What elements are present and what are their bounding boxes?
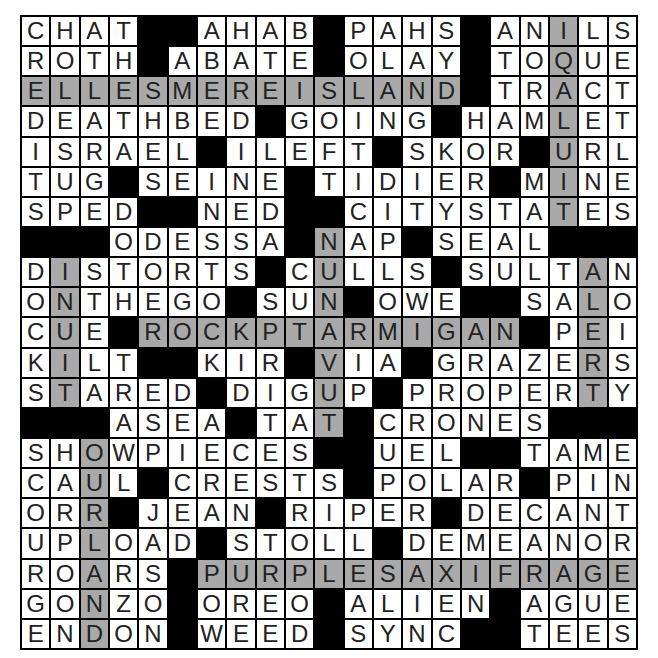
letter-cell[interactable]: O <box>51 560 78 588</box>
letter-cell[interactable]: T <box>257 47 284 75</box>
letter-cell[interactable]: T <box>81 47 108 75</box>
letter-cell[interactable]: O <box>286 529 313 557</box>
letter-cell[interactable]: L <box>579 17 606 45</box>
letter-cell[interactable]: A <box>550 439 577 467</box>
shaded-letter-cell[interactable]: A <box>315 318 342 346</box>
letter-cell[interactable]: R <box>521 77 548 105</box>
shaded-letter-cell[interactable]: A <box>403 560 430 588</box>
letter-cell[interactable]: A <box>110 409 137 437</box>
letter-cell[interactable]: I <box>22 138 49 166</box>
letter-cell[interactable]: E <box>609 590 636 618</box>
shaded-letter-cell[interactable]: N <box>315 228 342 256</box>
shaded-letter-cell[interactable]: K <box>227 318 254 346</box>
letter-cell[interactable]: S <box>433 228 460 256</box>
letter-cell[interactable]: P <box>345 17 372 45</box>
letter-cell[interactable]: T <box>22 168 49 196</box>
letter-cell[interactable]: N <box>462 409 489 437</box>
letter-cell[interactable]: S <box>22 439 49 467</box>
letter-cell[interactable]: R <box>491 469 518 497</box>
letter-cell[interactable]: S <box>462 198 489 226</box>
letter-cell[interactable]: H <box>51 439 78 467</box>
letter-cell[interactable]: P <box>491 379 518 407</box>
shaded-letter-cell[interactable]: E <box>345 560 372 588</box>
letter-cell[interactable]: I <box>374 198 401 226</box>
letter-cell[interactable]: E <box>257 620 284 648</box>
shaded-letter-cell[interactable]: Q <box>550 47 577 75</box>
letter-cell[interactable]: E <box>521 379 548 407</box>
shaded-letter-cell[interactable]: D <box>81 620 108 648</box>
shaded-letter-cell[interactable]: C <box>198 318 225 346</box>
letter-cell[interactable]: A <box>81 379 108 407</box>
letter-cell[interactable]: R <box>227 590 254 618</box>
shaded-letter-cell[interactable]: I <box>51 258 78 286</box>
letter-cell[interactable]: I <box>579 469 606 497</box>
letter-cell[interactable]: E <box>579 620 606 648</box>
letter-cell[interactable]: O <box>609 288 636 316</box>
letter-cell[interactable]: C <box>433 620 460 648</box>
letter-cell[interactable]: D <box>403 529 430 557</box>
letter-cell[interactable]: G <box>286 379 313 407</box>
letter-cell[interactable]: G <box>403 107 430 135</box>
letter-cell[interactable]: O <box>315 107 342 135</box>
letter-cell[interactable]: L <box>169 138 196 166</box>
shaded-letter-cell[interactable]: E <box>609 560 636 588</box>
letter-cell[interactable]: G <box>81 168 108 196</box>
letter-cell[interactable]: U <box>579 47 606 75</box>
letter-cell[interactable]: S <box>403 258 430 286</box>
letter-cell[interactable]: R <box>433 379 460 407</box>
letter-cell[interactable]: R <box>257 349 284 377</box>
letter-cell[interactable]: M <box>579 439 606 467</box>
letter-cell[interactable]: P <box>550 469 577 497</box>
shaded-letter-cell[interactable]: L <box>315 560 342 588</box>
letter-cell[interactable]: T <box>345 138 372 166</box>
letter-cell[interactable]: P <box>139 439 166 467</box>
letter-cell[interactable]: L <box>609 138 636 166</box>
letter-cell[interactable]: A <box>462 469 489 497</box>
letter-cell[interactable]: J <box>139 499 166 527</box>
letter-cell[interactable]: S <box>462 258 489 286</box>
letter-cell[interactable]: E <box>491 409 518 437</box>
letter-cell[interactable]: I <box>345 349 372 377</box>
shaded-letter-cell[interactable]: T <box>579 379 606 407</box>
letter-cell[interactable]: E <box>198 107 225 135</box>
letter-cell[interactable]: L <box>374 590 401 618</box>
letter-cell[interactable]: E <box>491 499 518 527</box>
letter-cell[interactable]: R <box>110 560 137 588</box>
letter-cell[interactable]: E <box>169 228 196 256</box>
shaded-letter-cell[interactable]: M <box>169 77 196 105</box>
letter-cell[interactable]: O <box>462 138 489 166</box>
shaded-letter-cell[interactable]: L <box>345 77 372 105</box>
letter-cell[interactable]: W <box>198 620 225 648</box>
letter-cell[interactable]: R <box>403 409 430 437</box>
letter-cell[interactable]: E <box>169 409 196 437</box>
letter-cell[interactable]: D <box>227 107 254 135</box>
letter-cell[interactable]: T <box>81 288 108 316</box>
letter-cell[interactable]: O <box>579 529 606 557</box>
letter-cell[interactable]: O <box>286 590 313 618</box>
letter-cell[interactable]: O <box>403 469 430 497</box>
letter-cell[interactable]: L <box>110 469 137 497</box>
letter-cell[interactable]: A <box>198 17 225 45</box>
letter-cell[interactable]: N <box>521 17 548 45</box>
letter-cell[interactable]: M <box>462 529 489 557</box>
letter-cell[interactable]: A <box>286 409 313 437</box>
letter-cell[interactable]: O <box>51 47 78 75</box>
shaded-letter-cell[interactable]: U <box>315 258 342 286</box>
letter-cell[interactable]: I <box>198 168 225 196</box>
letter-cell[interactable]: D <box>169 379 196 407</box>
letter-cell[interactable]: H <box>403 17 430 45</box>
shaded-letter-cell[interactable]: E <box>198 77 225 105</box>
letter-cell[interactable]: A <box>491 107 518 135</box>
letter-cell[interactable]: E <box>139 379 166 407</box>
letter-cell[interactable]: C <box>374 409 401 437</box>
letter-cell[interactable]: T <box>198 258 225 286</box>
letter-cell[interactable]: A <box>550 288 577 316</box>
letter-cell[interactable]: O <box>462 379 489 407</box>
letter-cell[interactable]: L <box>345 529 372 557</box>
letter-cell[interactable]: O <box>110 529 137 557</box>
letter-cell[interactable]: D <box>227 379 254 407</box>
letter-cell[interactable]: S <box>609 620 636 648</box>
letter-cell[interactable]: T <box>550 258 577 286</box>
letter-cell[interactable]: S <box>81 258 108 286</box>
letter-cell[interactable]: I <box>227 349 254 377</box>
